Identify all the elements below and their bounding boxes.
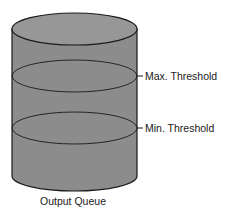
cylinder-top — [12, 13, 137, 45]
cylinder-body — [12, 29, 137, 191]
output-queue-diagram: Max. Threshold Min. Threshold Output Que… — [0, 0, 227, 214]
queue-cylinder — [12, 13, 137, 191]
min-threshold-label: Min. Threshold — [145, 122, 214, 134]
output-queue-label: Output Queue — [40, 195, 106, 207]
max-threshold-label: Max. Threshold — [145, 70, 217, 82]
